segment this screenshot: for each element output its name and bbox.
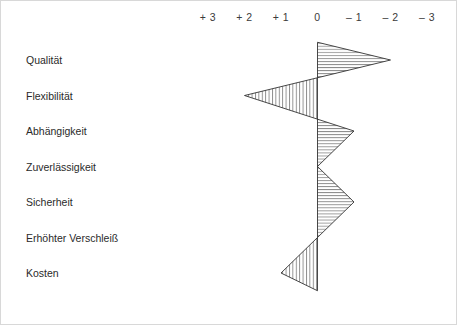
value-triangle bbox=[318, 119, 355, 166]
value-triangle bbox=[318, 167, 355, 238]
value-triangle bbox=[318, 42, 391, 78]
value-triangle bbox=[281, 238, 318, 291]
value-triangle bbox=[245, 78, 318, 119]
polarity-profile-plot bbox=[0, 0, 457, 325]
chart-page: + 3+ 2+ 10– 1– 2– 3 QualitätFlexibilität… bbox=[0, 0, 457, 325]
